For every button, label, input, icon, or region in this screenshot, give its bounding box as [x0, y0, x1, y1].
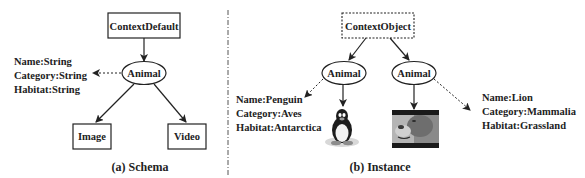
lion-attr-category: Category:Mammalia — [482, 105, 576, 119]
schema-attr-habitat: Habitat:String — [14, 83, 87, 97]
diagram-canvas: ContextDefault Animal Image Video (a) Sc… — [0, 0, 585, 178]
instance-caption: (b) Instance — [349, 160, 411, 174]
schema-attributes: Name:String Category:String Habitat:Stri… — [14, 55, 87, 97]
schema-attr-category: Category:String — [14, 69, 87, 83]
context-object-label: ContextObject — [345, 21, 411, 32]
penguin-attr-name: Name:Penguin — [236, 93, 322, 107]
lion-video-frame-icon — [392, 110, 439, 148]
instance-panel: ContextObject Animal Anim — [305, 13, 470, 174]
edge-root-to-animal-right — [390, 38, 409, 60]
penguin-attributes: Name:Penguin Category:Aves Habitat:Antar… — [236, 93, 322, 135]
animal-label-schema: Animal — [127, 68, 160, 79]
edge-animal-to-image — [96, 84, 134, 122]
image-label: Image — [78, 131, 106, 142]
schema-panel: ContextDefault Animal Image Video (a) Sc… — [73, 13, 206, 174]
diagram-svg: ContextDefault Animal Image Video (a) Sc… — [0, 0, 585, 178]
penguin-attr-habitat: Habitat:Antarctica — [236, 121, 322, 135]
animal-label-right: Animal — [397, 68, 430, 79]
edge-root-to-animal-left — [349, 38, 366, 60]
context-default-label: ContextDefault — [110, 21, 179, 32]
lion-attr-habitat: Habitat:Grassland — [482, 119, 576, 133]
penguin-attr-category: Category:Aves — [236, 107, 322, 121]
attribute-dashed-edge-right — [434, 79, 470, 110]
schema-attr-name: Name:String — [14, 55, 87, 69]
penguin-icon — [325, 109, 359, 147]
schema-caption: (a) Schema — [112, 160, 169, 174]
lion-attr-name: Name:Lion — [482, 91, 576, 105]
animal-label-left: Animal — [327, 68, 360, 79]
edge-animal-to-video — [154, 84, 186, 122]
video-label: Video — [174, 131, 200, 142]
lion-attributes: Name:Lion Category:Mammalia Habitat:Gras… — [482, 91, 576, 133]
